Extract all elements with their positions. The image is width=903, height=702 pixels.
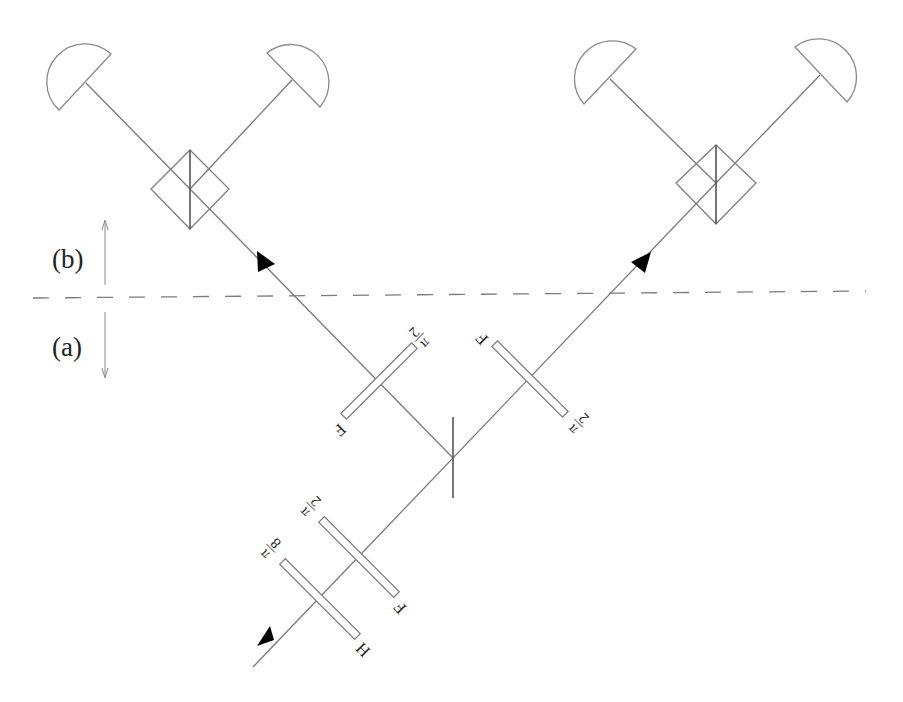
plate-left-arm-fraction-den: 2: [406, 324, 423, 341]
region-b-label: (b): [52, 244, 83, 274]
region-boundary-dashed-line: [33, 291, 866, 298]
plate-right-arm-fraction-den: 2: [575, 410, 592, 427]
optical-setup-diagram: (b) (a) π 8 H π: [0, 0, 903, 702]
left-analyzer-output-beam-2: [190, 80, 292, 189]
plate-left-arm-axis-label: F: [330, 420, 350, 440]
region-a-indicator: (a): [52, 312, 108, 378]
plate-pi-8-axis-label: H: [352, 639, 374, 661]
right-analyzer: [574, 39, 856, 224]
left-arm-beam: [190, 189, 453, 458]
left-analyzer: [47, 44, 329, 229]
plate-pi-2-lower-fraction-den: 2: [307, 493, 324, 510]
right-analyzer-output-beam-2: [716, 75, 820, 183]
input-direction-arrow-icon: [257, 626, 274, 646]
left-arm-direction-arrow-icon: [257, 251, 275, 272]
beam-paths: [86, 75, 820, 667]
plate-left-arm: π 2 F: [330, 322, 436, 440]
left-analyzer-detector-1-icon: [47, 44, 111, 110]
right-arm-direction-arrow-icon: [631, 252, 651, 273]
plate-pi-8-fraction-den: 8: [267, 535, 284, 552]
plate-right-arm-axis-label: F: [472, 329, 492, 349]
plate-pi-2-lower-axis-label: F: [390, 598, 410, 618]
right-analyzer-detector-1-icon: [574, 41, 636, 104]
region-a-label: (a): [52, 332, 82, 362]
plate-right-arm: π 2 F: [472, 329, 594, 440]
right-analyzer-output-beam-1: [610, 79, 716, 183]
plate-pi-2-lower: π 2 F: [294, 491, 410, 618]
right-analyzer-detector-2-icon: [795, 39, 857, 102]
region-b-indicator: (b): [52, 220, 108, 285]
left-analyzer-output-beam-1: [86, 83, 190, 189]
